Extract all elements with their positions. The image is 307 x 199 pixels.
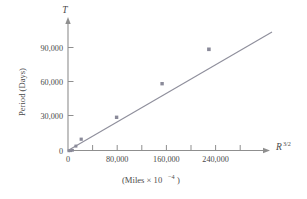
- y-tick-label-60000: 60,000: [40, 78, 63, 87]
- x-axis-symbol-base: R: [275, 142, 282, 152]
- x-axis-symbol-exponent: 3/2: [283, 140, 291, 147]
- x-axis-symbol: R 3/2: [275, 140, 291, 153]
- y-axis-symbol: T: [62, 5, 68, 15]
- best-fit-line: [68, 32, 272, 151]
- data-point: [74, 145, 77, 148]
- y-tick-label-90000: 90,000: [40, 44, 63, 53]
- x-tick-label-240000: 240,000: [202, 155, 229, 164]
- y-axis-title: Period (Days): [17, 68, 27, 116]
- plot-canvas: 0 30,000 60,000 90,000 0 80,000 160,000 …: [0, 0, 307, 199]
- caption-close: ): [177, 175, 180, 185]
- x-axis-caption: (Miles × 10 −4 ): [122, 173, 180, 185]
- data-point: [80, 138, 83, 141]
- y-tick-label-0: 0: [59, 147, 63, 156]
- y-axis-ticks: [68, 48, 74, 116]
- x-tick-label-160000: 160,000: [153, 155, 180, 164]
- caption-exponent: −4: [168, 173, 175, 180]
- y-axis: [65, 17, 70, 151]
- data-point: [207, 48, 211, 52]
- y-tick-label-30000: 30,000: [40, 112, 63, 121]
- chart-figure: 0 30,000 60,000 90,000 0 80,000 160,000 …: [0, 0, 307, 199]
- x-axis-ticks: [93, 145, 241, 151]
- data-point: [71, 149, 74, 152]
- data-point: [115, 116, 118, 119]
- x-tick-label-80000: 80,000: [106, 155, 129, 164]
- data-point: [160, 82, 163, 85]
- caption-base: (Miles × 10: [122, 175, 162, 185]
- x-tick-label-0: 0: [66, 155, 70, 164]
- data-points: [67, 48, 210, 153]
